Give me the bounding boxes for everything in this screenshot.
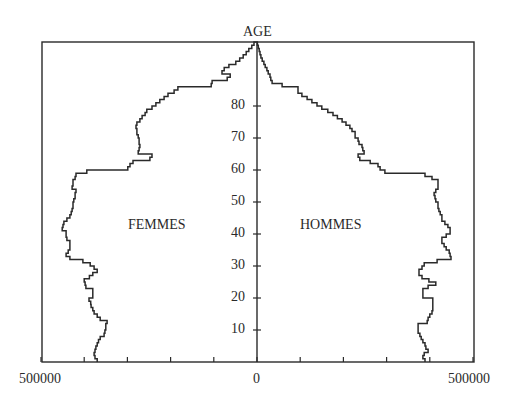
x-tick-label-center: 0 <box>253 372 260 386</box>
y-tick-label: 70 <box>231 130 245 144</box>
femmes-profile-line <box>62 42 257 362</box>
y-tick-label: 10 <box>231 322 245 336</box>
x-axis-ticks <box>41 357 473 362</box>
y-tick-label: 50 <box>231 194 245 208</box>
y-tick-label: 80 <box>231 98 245 112</box>
femmes-label: FEMMES <box>128 218 186 232</box>
x-tick-label-left: 500000 <box>19 372 61 386</box>
y-tick-label: 60 <box>231 162 245 176</box>
population-pyramid-chart <box>0 0 529 415</box>
y-tick-label: 30 <box>231 258 245 272</box>
y-tick-label: 40 <box>231 226 245 240</box>
x-tick-label-right: 500000 <box>448 372 490 386</box>
age-axis-title: AGE <box>243 25 272 39</box>
y-tick-label: 20 <box>231 290 245 304</box>
hommes-profile-line <box>257 42 451 362</box>
hommes-label: HOMMES <box>300 218 361 232</box>
